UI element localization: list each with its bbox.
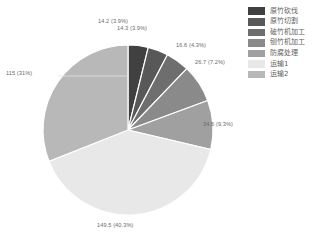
pie-chart-page: 14.2 (3.9%) 14.3 (3.9%) 16.6 (4.3%) 26.7…	[0, 0, 326, 239]
legend-item[interactable]: 防腐处理	[248, 48, 324, 58]
legend: 原竹砍伐原竹切割破竹机加工刨竹机加工防腐处理运输1运输2	[248, 6, 324, 80]
data-label-slice-2: 16.6 (4.3%)	[176, 43, 206, 49]
legend-item[interactable]: 刨竹机加工	[248, 38, 324, 48]
data-label-slice-0: 14.2 (3.9%)	[98, 19, 128, 25]
legend-item[interactable]: 原竹切割	[248, 17, 324, 27]
legend-color-swatch	[248, 39, 265, 47]
legend-item-label: 防腐处理	[270, 50, 298, 57]
data-label-slice-3: 26.7 (7.2%)	[195, 60, 225, 66]
legend-item[interactable]: 运输2	[248, 69, 324, 79]
legend-color-swatch	[248, 29, 265, 37]
legend-color-swatch	[248, 18, 265, 26]
data-label-slice-5: 149.5 (40.3%)	[97, 223, 133, 229]
legend-color-swatch	[248, 60, 265, 68]
legend-color-swatch	[248, 7, 265, 15]
legend-item-label: 原竹切割	[270, 18, 298, 25]
legend-item-label: 破竹机加工	[270, 29, 305, 36]
legend-item-label: 原竹砍伐	[270, 8, 298, 15]
legend-item-label: 刨竹机加工	[270, 39, 305, 46]
data-label-slice-4: 34.6 (9.3%)	[203, 122, 233, 128]
legend-item[interactable]: 破竹机加工	[248, 27, 324, 37]
data-label-slice-6: 115 (31%)	[6, 71, 32, 77]
legend-color-swatch	[248, 71, 265, 79]
pie-slice-group	[43, 45, 213, 215]
legend-color-swatch	[248, 50, 265, 58]
data-label-slice-1: 14.3 (3.9%)	[117, 26, 147, 32]
legend-item[interactable]: 原竹砍伐	[248, 6, 324, 16]
legend-item[interactable]: 运输1	[248, 59, 324, 69]
legend-item-label: 运输1	[270, 61, 288, 68]
legend-item-label: 运输2	[270, 71, 288, 78]
